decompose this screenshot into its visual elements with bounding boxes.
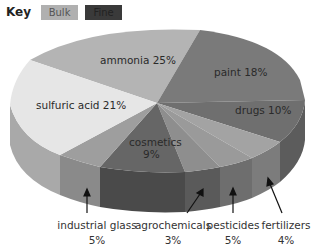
pie-chart: ammonia 25% paint 18% drugs 10% sulfuric… bbox=[0, 0, 313, 251]
label-agrochemicals: agrochemicals 3% bbox=[133, 218, 213, 248]
label-cosmetics-pct: 9% bbox=[143, 148, 160, 160]
label-industrial-glass: industrial glass 5% bbox=[52, 218, 142, 248]
label-pesticides: pesticides 5% bbox=[205, 218, 261, 248]
label-drugs: drugs 10% bbox=[235, 104, 291, 116]
label-paint: paint 18% bbox=[214, 66, 267, 78]
label-sulfuric-acid: sulfuric acid 21% bbox=[36, 99, 126, 111]
label-cosmetics-name: cosmetics bbox=[129, 136, 182, 148]
label-fertilizers: fertilizers 4% bbox=[260, 218, 312, 248]
label-ammonia: ammonia 25% bbox=[100, 54, 176, 66]
